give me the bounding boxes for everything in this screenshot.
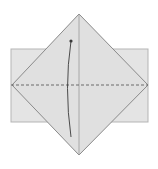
origami-diagram <box>0 0 158 169</box>
arrow-head-icon <box>69 39 72 42</box>
diagram-canvas <box>0 0 158 169</box>
